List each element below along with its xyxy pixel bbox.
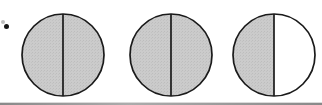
- circle-two: [128, 10, 214, 100]
- bullet-mark-icon: [4, 24, 9, 29]
- circle-three: [231, 10, 317, 100]
- circle-three-right-half-unshaded: [274, 14, 315, 96]
- scan-edge-artifact: [0, 103, 322, 105]
- circle-one: [20, 10, 106, 100]
- fraction-circles-figure: [0, 0, 322, 105]
- circle-three-left-half-shaded: [233, 14, 274, 96]
